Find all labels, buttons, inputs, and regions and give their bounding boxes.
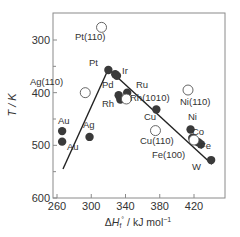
- filled-data-point: [113, 72, 121, 80]
- filled-data-point: [58, 127, 66, 135]
- point-label: Co: [192, 126, 204, 137]
- point-label: Ni(110): [180, 96, 210, 107]
- point-label: Ag: [83, 119, 95, 130]
- x-tick-label: 260: [48, 200, 66, 212]
- point-label: Au: [58, 115, 70, 126]
- point-label: Ag(110): [30, 76, 63, 87]
- x-tick-label: 380: [151, 200, 169, 212]
- filled-data-point: [58, 137, 66, 145]
- y-tick-label: 400: [32, 87, 50, 99]
- point-label: Pd: [102, 79, 114, 90]
- scatter-chart: 300400500600 260300340380420 Pt(110)Ag(1…: [0, 0, 240, 237]
- point-label: Fe(100): [152, 149, 185, 160]
- point-label: Ru: [136, 79, 148, 90]
- point-label: Cu(110): [140, 135, 174, 146]
- open-data-point: [183, 85, 193, 95]
- filled-data-point: [85, 133, 93, 141]
- x-tick-label: 340: [116, 200, 134, 212]
- filled-data-point: [207, 156, 215, 164]
- point-label: Fe: [200, 140, 211, 151]
- point-label: Cu: [144, 111, 156, 122]
- y-tick-label: 500: [32, 139, 50, 151]
- point-label: Rh: [102, 98, 114, 109]
- y-tick-label: 300: [32, 34, 50, 46]
- point-label: Pt(110): [75, 31, 105, 42]
- x-tick-label: 300: [82, 200, 100, 212]
- point-label: Ir: [122, 65, 128, 76]
- point-label: Ni: [188, 111, 197, 122]
- point-label: W: [192, 161, 201, 172]
- y-axis-label: T / K: [6, 93, 18, 117]
- x-axis: 260300340380420: [48, 194, 203, 212]
- point-label: Pt: [89, 57, 98, 68]
- point-label: Au: [67, 141, 79, 152]
- open-data-point: [80, 88, 90, 98]
- point-label: Rh(1010): [130, 92, 170, 103]
- x-tick-label: 420: [185, 200, 203, 212]
- x-axis-label: ΔHf° / kJ mol−1: [105, 216, 172, 229]
